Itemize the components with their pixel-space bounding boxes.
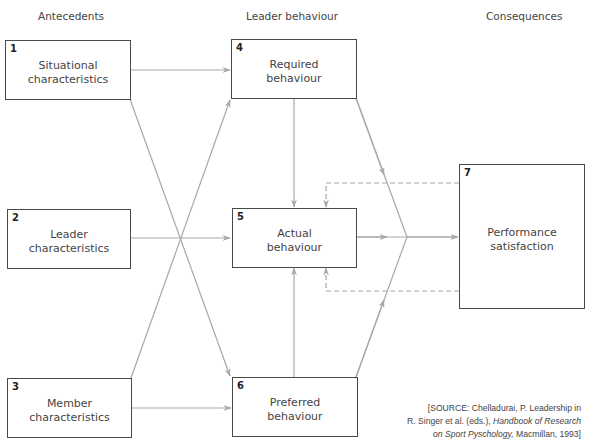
box-required-behaviour: 4 Required behaviour (231, 39, 357, 99)
box-label: Preferred behaviour (233, 396, 357, 424)
box-actual-behaviour: 5 Actual behaviour (232, 208, 357, 268)
box-label: Leader characteristics (8, 228, 130, 256)
box-label-line1: Leader (8, 228, 130, 242)
source-citation: [SOURCE: Chelladurai, P. Leadership in R… (407, 402, 581, 441)
box-label-line2: behaviour (233, 241, 356, 255)
box-label-line2: characteristics (8, 411, 131, 425)
box-label: Situational characteristics (6, 59, 130, 87)
box-label-line1: Situational (6, 59, 130, 73)
box-label: Member characteristics (8, 397, 131, 425)
box-label-line2: behaviour (232, 72, 356, 86)
box-label-line2: behaviour (233, 410, 357, 424)
box-number: 7 (464, 167, 471, 178)
box-number: 5 (237, 211, 244, 222)
source-book-title-part1: Handbook of Research (493, 416, 581, 426)
box-label-line1: Actual (233, 227, 356, 241)
box-label-line1: Required (232, 58, 356, 72)
source-line3: on Sport Pyschology, Macmillan, 1993] (407, 428, 581, 441)
box-label-line2: characteristics (8, 242, 130, 256)
source-line2-text: R. Singer et al. (eds.), (407, 416, 493, 426)
box-label: Performance satisfaction (460, 225, 584, 253)
header-consequences: Consequences (486, 10, 562, 22)
box-preferred-behaviour: 6 Preferred behaviour (232, 377, 358, 437)
box-label: Actual behaviour (233, 227, 356, 255)
box-number: 6 (237, 380, 244, 391)
box-number: 2 (12, 212, 19, 223)
box-performance-satisfaction: 7 Performance satisfaction (459, 164, 585, 309)
box-member-characteristics: 3 Member characteristics (7, 378, 132, 438)
feedback-7-to-5-bottom (326, 268, 459, 291)
feedback-7-to-5-top (326, 183, 459, 207)
box-leader-characteristics: 2 Leader characteristics (7, 209, 131, 269)
box-number: 1 (10, 43, 17, 54)
box-label-line2: characteristics (6, 73, 130, 87)
arrowhead-4-convergence (356, 98, 384, 175)
source-book-title-part2: on Sport Pyschology, (433, 429, 514, 439)
source-line2: R. Singer et al. (eds.), Handbook of Res… (407, 415, 581, 428)
box-number: 4 (236, 42, 243, 53)
source-line1: [SOURCE: Chelladurai, P. Leadership in (407, 402, 581, 415)
header-leader-behaviour: Leader behaviour (246, 10, 338, 22)
box-number: 3 (12, 381, 19, 392)
box-label-line1: Performance (460, 225, 584, 239)
box-label-line2: satisfaction (460, 239, 584, 253)
box-situational-characteristics: 1 Situational characteristics (5, 40, 131, 100)
arrowhead-6-convergence (356, 300, 384, 377)
box-label-line1: Member (8, 397, 131, 411)
header-antecedents: Antecedents (38, 10, 104, 22)
source-publisher: Macmillan, 1993] (514, 429, 581, 439)
box-label: Required behaviour (232, 58, 356, 86)
box-label-line1: Preferred (233, 396, 357, 410)
